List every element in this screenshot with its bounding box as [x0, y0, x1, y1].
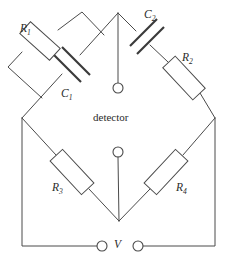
- label-detector: detector: [93, 112, 128, 123]
- c1-lead-upper: [80, 13, 118, 55]
- label-r2: R2: [182, 52, 193, 66]
- c1-plate-left: [53, 54, 81, 82]
- c1-plate-right: [62, 47, 90, 75]
- capacitor-c1: [53, 47, 90, 82]
- detector-upper-terminal[interactable]: [113, 83, 123, 93]
- c2-plate-lower: [137, 27, 164, 54]
- detector-lower-lead: [118, 157, 119, 221]
- r3-lead-upper: [22, 118, 56, 155]
- detector-lower-terminal[interactable]: [113, 147, 123, 157]
- circuit-schematic-canvas: [0, 0, 233, 267]
- arm-upper-right: [118, 13, 215, 118]
- label-source-v: V: [114, 239, 121, 251]
- c2-to-r2-wire: [150, 45, 168, 62]
- source-left-terminal[interactable]: [97, 241, 107, 251]
- source-right-terminal[interactable]: [133, 241, 143, 251]
- r4-lead-upper: [183, 118, 215, 155]
- r1-branch-wire: [8, 52, 42, 98]
- r4-lead-lower: [119, 189, 150, 221]
- label-c2: C2: [144, 9, 155, 23]
- label-r3: R3: [52, 182, 63, 196]
- capacitor-c2: [130, 19, 164, 54]
- label-r1: R1: [20, 23, 31, 37]
- r2-to-right-node-wire: [200, 93, 215, 118]
- circuit-diagram: R1 R2 R3 R4 C1 C2 detector V: [0, 0, 233, 267]
- label-c1: C1: [61, 88, 72, 102]
- r1-branch-wire-top: [58, 12, 104, 35]
- c2-lead-upper: [118, 13, 136, 31]
- label-r4: R4: [176, 182, 187, 196]
- r3-lead-lower: [89, 189, 119, 221]
- arm-lower-left: [22, 118, 119, 221]
- c1-lead-lower: [22, 74, 62, 118]
- arm-lower-right: [119, 118, 215, 221]
